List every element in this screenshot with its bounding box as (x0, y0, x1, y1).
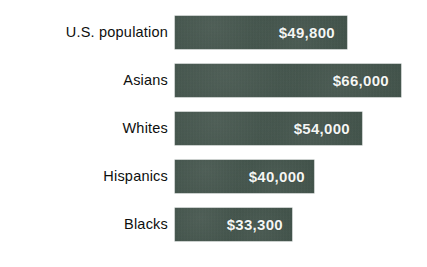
bar: $49,800 (175, 16, 347, 49)
bar-track: $54,000 (175, 112, 427, 145)
bar-track: $33,300 (175, 208, 427, 241)
category-label: Blacks (124, 217, 168, 232)
bar-value-label: $54,000 (294, 121, 350, 136)
bar-chart: U.S. population $49,800 Asians $66,000 W… (0, 0, 427, 267)
chart-row: U.S. population $49,800 (0, 16, 427, 49)
chart-row: Whites $54,000 (0, 112, 427, 145)
bar: $33,300 (175, 208, 292, 241)
category-label: U.S. population (66, 25, 168, 40)
bar-value-label: $40,000 (249, 169, 305, 184)
bar-track: $66,000 (175, 64, 427, 97)
bar-value-label: $49,800 (279, 25, 335, 40)
category-label: Whites (122, 121, 168, 136)
bar-track: $49,800 (175, 16, 427, 49)
category-label-cell: Whites (0, 112, 168, 145)
chart-row: Blacks $33,300 (0, 208, 427, 241)
bar: $40,000 (175, 160, 314, 193)
chart-plot-area: U.S. population $49,800 Asians $66,000 W… (0, 16, 427, 256)
chart-row: Hispanics $40,000 (0, 160, 427, 193)
category-label-cell: U.S. population (0, 16, 168, 49)
bar-value-label: $66,000 (333, 73, 389, 88)
bar-value-label: $33,300 (227, 217, 283, 232)
category-label-cell: Asians (0, 64, 168, 97)
chart-row: Asians $66,000 (0, 64, 427, 97)
bar: $66,000 (175, 64, 401, 97)
bar-track: $40,000 (175, 160, 427, 193)
category-label: Hispanics (103, 169, 168, 184)
category-label-cell: Blacks (0, 208, 168, 241)
category-label: Asians (123, 73, 168, 88)
category-label-cell: Hispanics (0, 160, 168, 193)
bar: $54,000 (175, 112, 362, 145)
